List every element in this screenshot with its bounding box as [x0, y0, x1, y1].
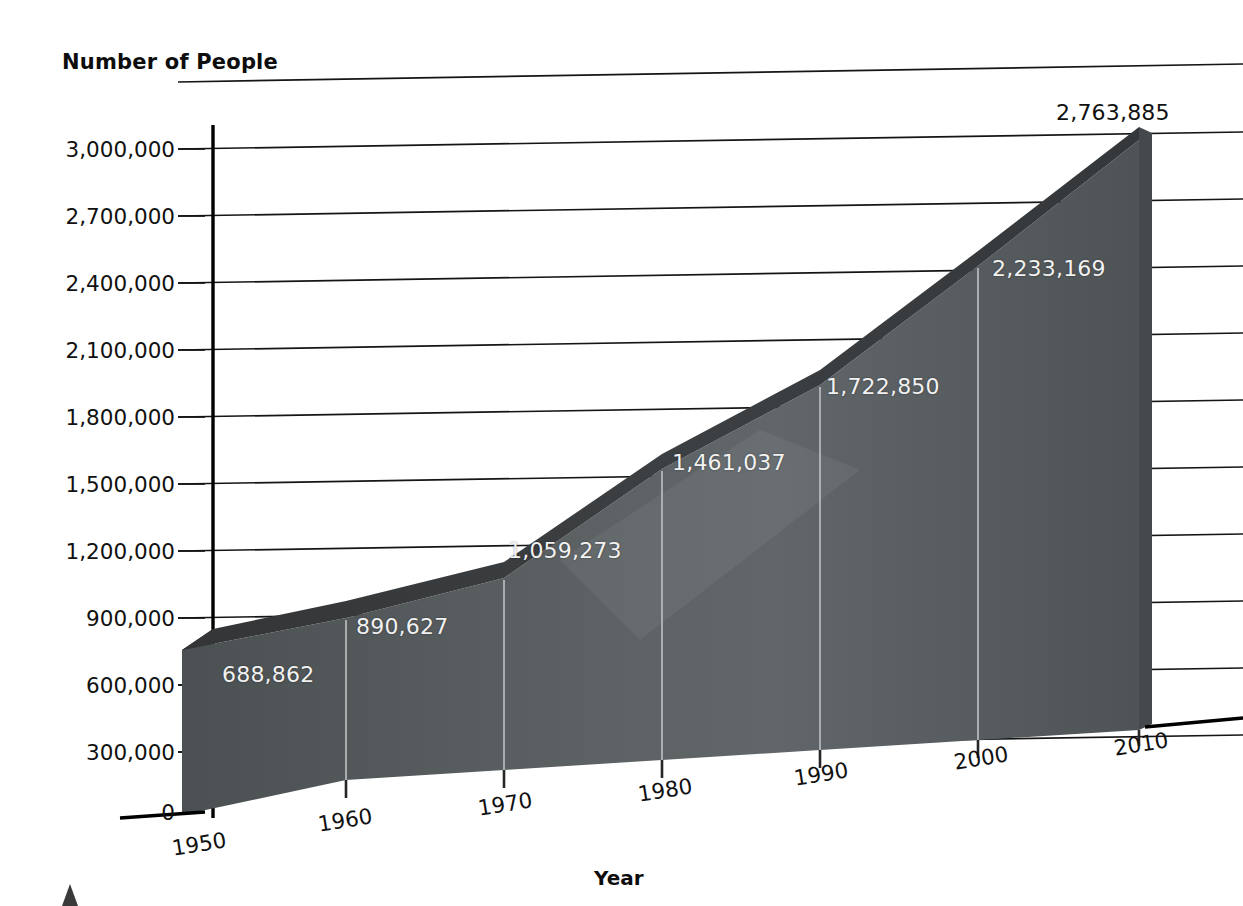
data-label-1980: 1,461,037	[672, 450, 786, 475]
y-axis-title: Number of People	[62, 50, 278, 74]
y-tick-label: 3,000,000	[20, 137, 175, 162]
data-label-1970: 1,059,273	[508, 538, 622, 563]
y-tick-label: 300,000	[20, 740, 175, 765]
y-tick-label: 1,200,000	[20, 539, 175, 564]
y-tick-label: 2,700,000	[20, 204, 175, 229]
y-tick-label: 2,400,000	[20, 271, 175, 296]
y-tick-label: 1,500,000	[20, 472, 175, 497]
data-label-1960: 890,627	[356, 614, 448, 639]
chart-figure: Number of People Year 3,000,000 2,700,00…	[0, 0, 1243, 906]
area-chart-canvas	[0, 0, 1243, 906]
data-label-1950: 688,862	[222, 662, 314, 687]
x-axis-title: Year	[594, 866, 644, 890]
y-tick-label: 2,100,000	[20, 338, 175, 363]
data-label-1990: 1,722,850	[826, 374, 940, 399]
page-caret-artifact	[62, 884, 78, 906]
data-label-2010: 2,763,885	[1056, 100, 1170, 125]
y-tick-label: 0	[20, 800, 175, 825]
data-label-2000: 2,233,169	[992, 256, 1106, 281]
y-tick-label: 1,800,000	[20, 405, 175, 430]
y-tick-label: 600,000	[20, 673, 175, 698]
area-right-cap	[1139, 127, 1152, 730]
y-tick-label: 900,000	[20, 606, 175, 631]
